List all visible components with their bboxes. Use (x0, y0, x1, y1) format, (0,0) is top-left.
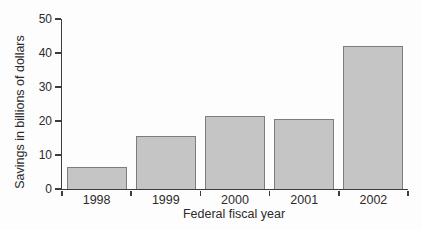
x-category-label: 2002 (339, 193, 408, 208)
bar-2002 (343, 46, 403, 189)
x-category-label: 2001 (270, 193, 339, 208)
x-category-label: 1998 (62, 193, 131, 208)
y-axis-tick-label: 50 (16, 11, 52, 27)
y-axis-tick (55, 18, 61, 20)
y-axis-tick-label: 10 (16, 147, 52, 163)
bar-2000 (205, 116, 265, 189)
bar-chart-figure: Savings in billions of dollars 010203040… (0, 0, 422, 230)
y-axis-tick-label: 0 (16, 181, 52, 197)
y-axis-tick (55, 52, 61, 54)
y-axis-tick-label: 20 (16, 113, 52, 129)
bar-2001 (274, 119, 334, 189)
x-category-label: 2000 (200, 193, 269, 208)
y-axis-tick-label: 30 (16, 79, 52, 95)
bar-1998 (67, 167, 127, 189)
x-axis-title: Federal fiscal year (61, 207, 407, 221)
y-axis-tick (55, 120, 61, 122)
y-axis-tick (55, 154, 61, 156)
y-axis-tick-label: 40 (16, 45, 52, 61)
plot-area: 0102030405019981999200020012002 (61, 19, 408, 190)
y-axis-tick (55, 188, 61, 190)
x-category-label: 1999 (131, 193, 200, 208)
y-axis-tick (55, 86, 61, 88)
bar-1999 (136, 136, 196, 189)
